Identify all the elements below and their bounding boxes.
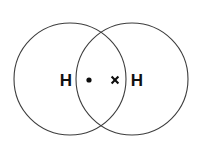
molecule-diagram: H H (0, 0, 204, 149)
bonding-electron-dot-icon (86, 77, 91, 82)
atom-label-hydrogen-right: H (131, 71, 143, 90)
bonding-electron-cross-icon (112, 77, 119, 84)
atom-label-hydrogen-left: H (60, 71, 72, 90)
diagram-canvas: H H (0, 0, 204, 149)
